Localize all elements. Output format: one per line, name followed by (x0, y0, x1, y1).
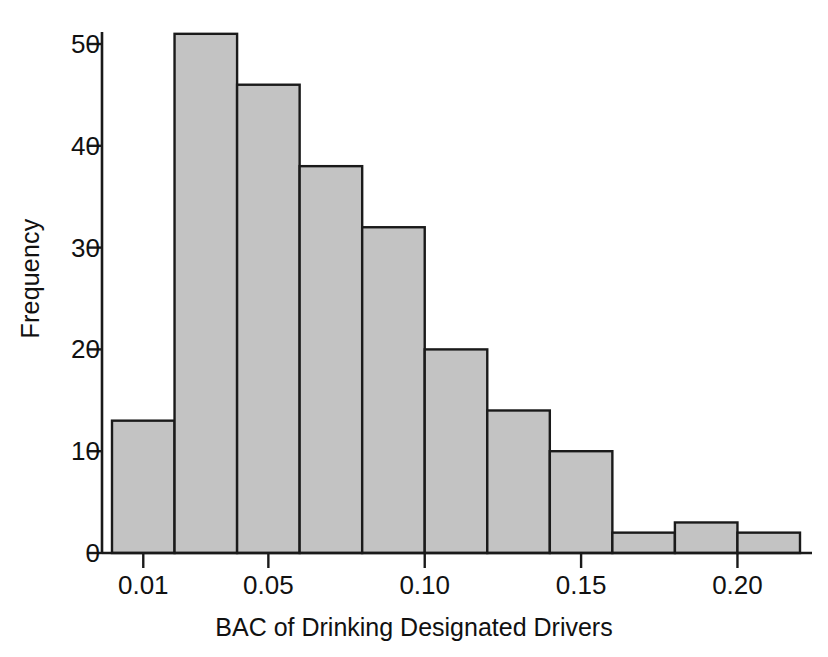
y-tick-label: 30 (48, 235, 100, 261)
x-tick-label: 0.01 (83, 572, 203, 598)
plot-area (0, 0, 828, 657)
y-tick-label: 40 (48, 133, 100, 159)
x-tick-label: 0.05 (208, 572, 328, 598)
histogram-bar (675, 522, 738, 553)
y-axis-title-text: Frequency (17, 219, 46, 339)
histogram-bar (237, 85, 300, 553)
y-axis-tick-labels: 0 10 20 30 40 50 (44, 0, 100, 657)
x-tick-label: 0.15 (521, 572, 641, 598)
x-tick-label: 0.20 (677, 572, 797, 598)
histogram-bar (612, 533, 675, 553)
y-tick-label: 20 (48, 336, 100, 362)
x-axis-title: BAC of Drinking Designated Drivers (0, 613, 828, 642)
histogram-bar (550, 451, 613, 553)
histogram-bar (737, 533, 800, 553)
histogram-bars (112, 34, 800, 553)
histogram-chart: Frequency 0 10 20 30 40 50 0.01 0.05 0.1… (0, 0, 828, 657)
histogram-bar (112, 421, 175, 553)
x-tick-label: 0.10 (365, 572, 485, 598)
histogram-bar (300, 166, 363, 553)
histogram-bar (487, 410, 550, 553)
histogram-bar (175, 34, 238, 553)
y-tick-label: 10 (48, 438, 100, 464)
y-tick-label: 0 (48, 540, 100, 566)
histogram-bar (362, 227, 425, 553)
histogram-bar (425, 349, 488, 553)
y-tick-label: 50 (48, 31, 100, 57)
